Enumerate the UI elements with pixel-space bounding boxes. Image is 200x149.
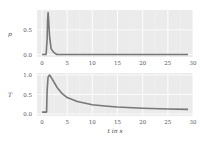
y-axis-label: T	[8, 91, 13, 98]
chart-canvas: 0510152025300.00.5p0510152025300.00.51.0…	[0, 0, 200, 149]
x-tick-label: 0	[40, 60, 44, 66]
y-tick-label: 1.0	[23, 72, 32, 78]
x-tick-label: 30	[190, 119, 197, 125]
x-tick-label: 5	[65, 60, 69, 66]
x-tick-label: 15	[114, 119, 121, 125]
x-tick-label: 10	[89, 119, 96, 125]
x-tick-label: 30	[190, 60, 197, 66]
y-tick-label: 0.0	[23, 111, 32, 117]
x-tick-label: 10	[89, 60, 96, 66]
x-axis-label: t in s	[107, 127, 122, 134]
x-tick-label: 15	[114, 60, 121, 66]
plot-area	[37, 10, 193, 57]
x-tick-label: 25	[164, 60, 171, 66]
x-tick-label: 5	[65, 119, 69, 125]
y-tick-label: 0.5	[23, 92, 32, 98]
x-tick-label: 25	[164, 119, 171, 125]
x-tick-label: 20	[139, 60, 146, 66]
y-axis-label: p	[8, 30, 12, 38]
x-tick-label: 20	[139, 119, 146, 125]
y-tick-label: 0.0	[23, 52, 32, 58]
subplot-p: 0510152025300.00.5p	[8, 10, 197, 66]
x-tick-label: 0	[40, 119, 44, 125]
subplot-T: 0510152025300.00.51.0Tt in s	[8, 72, 197, 134]
y-tick-label: 0.5	[23, 27, 32, 33]
